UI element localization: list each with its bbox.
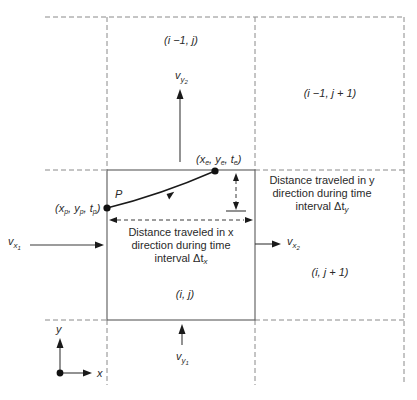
diagram-canvas: (i −1, j) (i −1, j + 1) (i, j) (i, j + 1… [0,0,417,400]
arrow-up-icon [177,89,184,99]
vy2-label: vy2 [175,69,189,85]
vx2-label: vx2 [287,235,301,251]
arrow-right-icon [83,370,92,377]
y-distance-indicator [226,173,246,211]
velocity-vy2: vy2 [175,69,189,162]
velocity-vx2: vx2 [255,235,301,251]
trajectory-curve [107,171,215,208]
coordinate-axes: y x [55,323,103,379]
x-distance-line2: direction during time [131,239,230,251]
x-distance-line3: interval Δtx [155,252,209,266]
x-distance-indicator [109,217,253,223]
cell-label-top: (i −1, j) [164,34,198,46]
arrow-right-icon [245,217,253,223]
velocity-vx1: vx1 [8,235,104,251]
start-point-label: (xp, yp, tp) [55,202,101,216]
point-p-label: P [115,188,123,200]
arrow-right-icon [167,192,176,200]
cell-label-center: (i, j) [176,288,195,300]
end-point-dot [211,167,218,174]
end-point-label: (xe, ye, te) [196,153,242,166]
y-distance-line1: Distance traveled in y [269,174,375,186]
grid-diagram: (i −1, j) (i −1, j + 1) (i, j) (i, j + 1… [0,0,417,400]
arrow-right-icon [95,242,104,249]
y-distance-annotation: Distance traveled in y direction during … [269,174,375,214]
start-point-dot [103,204,110,211]
arrow-down-icon [233,202,239,210]
arrow-up-icon [233,173,239,181]
velocity-vy1: vy1 [176,324,189,366]
x-distance-annotation: Distance traveled in x direction during … [128,226,234,266]
vy1-label: vy1 [176,350,189,366]
dashed-grid [45,17,404,385]
arrow-up-icon [57,338,64,348]
cell-label-top-right: (i −1, j + 1) [304,87,357,99]
cell-label-right: (i, j + 1) [312,266,349,278]
arrow-up-icon [179,324,186,334]
y-distance-line3: interval Δty [296,200,350,214]
vx1-label: vx1 [8,235,21,251]
origin-dot [57,370,64,377]
arrow-right-icon [272,241,281,248]
x-distance-line1: Distance traveled in x [128,226,234,238]
y-axis-label: y [55,323,63,335]
y-distance-line2: direction during time [272,187,371,199]
arrow-left-icon [109,217,117,223]
x-axis-label: x [96,367,103,379]
